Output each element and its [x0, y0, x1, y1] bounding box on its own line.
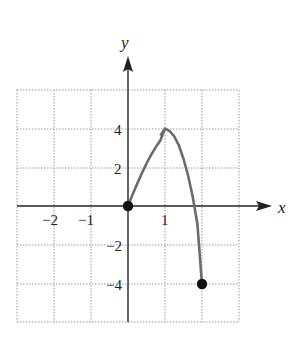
tick-y-4: 4 [114, 122, 122, 138]
axes [17, 56, 272, 322]
tick-y-neg4: −4 [106, 277, 122, 293]
tick-x-neg2: −2 [42, 212, 58, 228]
tick-x-1: 1 [161, 212, 169, 228]
y-axis-label: y [119, 33, 129, 52]
tick-y-2: 2 [114, 161, 122, 177]
endpoint-origin [123, 201, 133, 211]
x-axis-label: x [277, 198, 286, 217]
graph: y x −2 −1 1 4 2 −2 −4 [0, 0, 301, 338]
tick-y-neg2: −2 [106, 238, 122, 254]
tick-x-neg1: −1 [78, 212, 94, 228]
endpoint-2-neg4 [197, 279, 207, 289]
